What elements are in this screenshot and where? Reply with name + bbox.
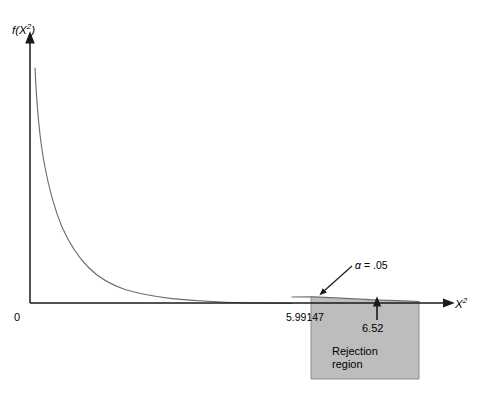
alpha-value: = .05 [361, 259, 388, 271]
alpha-annotation-label: α = .05 [355, 259, 388, 271]
origin-tick-label: 0 [14, 311, 20, 324]
chi-square-rejection-region-figure: f(X2) X2 0 5.99147 6.52 α = .05 Rejectio… [0, 0, 485, 403]
x-axis-label-text: X [455, 298, 463, 310]
y-axis-label-close: ) [31, 24, 35, 36]
rejection-region-label-line1: Rejection [332, 345, 378, 357]
alpha-callout-arrow [324, 266, 352, 291]
y-axis-label-text: f(X [12, 24, 27, 36]
test-statistic-label: 6.52 [362, 322, 383, 335]
x-axis-label: X2 [455, 296, 467, 311]
critical-value-tick-label: 5.99147 [286, 311, 324, 323]
plot-canvas [0, 0, 485, 403]
rejection-region-label-line2: region [332, 358, 363, 370]
chi-square-density-curve [35, 68, 292, 303]
x-axis-label-exponent: 2 [463, 296, 467, 305]
y-axis-label: f(X2) [12, 22, 35, 37]
rejection-region-label: Rejectionregion [332, 345, 378, 370]
